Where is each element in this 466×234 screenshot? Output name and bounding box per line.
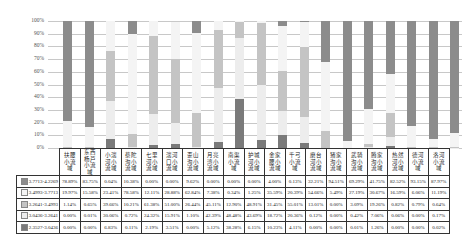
table-cell: 3.51% [162,222,183,234]
bar-segment [386,137,395,146]
table-cell: 93.15% [408,176,429,188]
bar-segment [364,21,373,109]
table-cell: 6.83% [101,222,122,234]
table-cell: 15.58% [80,187,101,199]
legend-text: 3.4993-3.7713 [29,190,58,195]
table-cell: 0.00% [162,176,183,188]
table-cell: 35.59% [265,187,286,199]
legend-text: 3.2641-3.4993 [29,201,58,206]
table-cell: 0.00% [60,222,81,234]
bar-segment [214,21,223,30]
y-tick-label: 80% [0,42,44,48]
y-tick-label: 50% [0,81,44,87]
bar-3 [128,21,137,148]
table-cell: 0.17% [429,210,450,222]
bar-segment [128,21,137,34]
table-cell: 30.67% [367,187,388,199]
bar-segment [257,85,266,140]
table-cell: 0.12% [306,210,327,222]
table-cell: 69.29% [347,176,368,188]
table-cell: 62.84% [183,187,204,199]
bar-12 [321,21,330,148]
y-tick-label: 30% [0,106,44,112]
table-cell: 78.89% [60,176,81,188]
bar-segment [149,21,158,36]
bar-segment [214,88,223,142]
bar-segment [450,133,459,147]
legend-swatch-icon [21,178,28,185]
bar-segment [149,114,158,145]
y-tick-label: 70% [0,55,44,61]
bar-segment [106,139,115,148]
bar-segment [321,131,330,148]
category-header: 猪家沟小流域 [326,149,347,176]
bar-segment [128,134,137,147]
table-cell: 30.06% [101,210,122,222]
table-cell: 0.00% [80,222,101,234]
table-cell: 38.28% [224,222,245,234]
bar-segment [63,21,72,121]
table-cell: 41.75% [367,176,388,188]
table-cell: 4.00% [265,176,286,188]
bar-segment [278,111,287,135]
bar-segment [171,59,180,124]
category-header: 金家腰小流域 [265,149,286,176]
category-header: 武骑沟小流域 [347,149,368,176]
bar-segment [192,33,201,113]
bar-segment [300,47,309,117]
bar-11 [300,21,309,148]
table-cell: 0.82% [388,199,409,211]
bar-2 [106,21,115,148]
table-cell: 26.44% [183,199,204,211]
table-cell: 32.21% [306,176,327,188]
table-cell: 0.00% [142,176,163,188]
table-cell: 55.01% [285,199,306,211]
y-tick-label: 20% [0,119,44,125]
table-cell: 0.00% [408,210,429,222]
bar-15 [386,21,395,148]
legend-swatch-icon [21,212,28,219]
category-header: 蔡陀沟小流域 [121,149,142,176]
table-cell: 0.00% [306,222,327,234]
table-cell: 10.38% [121,176,142,188]
bar-segment [63,121,72,146]
category-header: 歪山沟小流域 [183,149,204,176]
bar-segment [214,30,223,87]
category-header: 扶腰小流域 [60,149,81,176]
bar-17 [429,21,438,148]
bar-segment [171,22,180,59]
table-cell: 0.00% [203,176,224,188]
bar-segment [343,21,352,141]
table-cell: 0.13% [285,176,306,188]
category-header: 月亮湾小流域 [203,149,224,176]
bar-segment [343,141,352,148]
bar-14 [364,21,373,148]
bar-7 [214,21,223,148]
bar-segment [364,144,373,148]
y-tick-label: 60% [0,68,44,74]
legend-text: 2.3527-3.0436 [29,224,58,229]
legend-label: 2.3527-3.0436 [17,222,60,234]
table-cell: 0.00% [388,222,409,234]
category-header: 护城河小流域 [244,149,265,176]
table-cell: 10.21% [121,199,142,211]
table-cell: 1.26% [367,222,388,234]
data-table: 扶腰小流域东西杨芦小流域小湍河小流域蔡陀沟小流域七里河小流域湍河口小流域歪山沟小… [16,148,450,234]
legend-label: 3.2641-3.4993 [17,199,60,211]
bar-segment [429,139,438,147]
bar-segment [300,21,309,47]
bar-segment [85,21,94,127]
legend-text: 3.0436-3.2641 [29,213,58,218]
bar-segment [321,62,330,131]
category-header: 七里河小流域 [142,149,163,176]
bar-13 [343,21,352,148]
bar-segment [149,36,158,114]
table-cell: 1.25% [244,187,265,199]
bar-1 [85,21,94,148]
table-cell: 0.01% [347,222,368,234]
bar-segment [106,21,115,51]
bar-segment [106,51,115,101]
bar-segment [278,71,287,111]
table-cell: 1.14% [60,199,81,211]
table-cell: 0.11% [121,222,142,234]
